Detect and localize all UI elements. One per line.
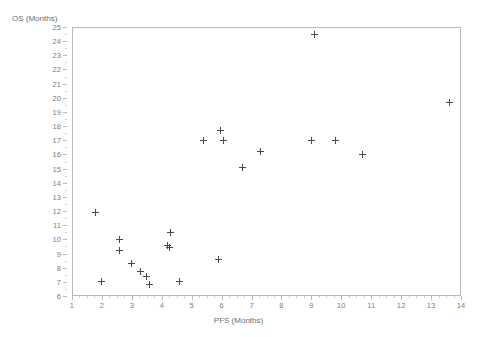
- data-point: [308, 137, 315, 144]
- x-minor-tick: [454, 296, 455, 298]
- data-point: [220, 137, 227, 144]
- x-minor-tick: [237, 296, 238, 298]
- x-minor-tick: [124, 296, 125, 298]
- x-tick-mark: [252, 296, 253, 300]
- x-minor-tick: [267, 296, 268, 298]
- x-minor-tick: [289, 296, 290, 298]
- x-minor-tick: [334, 296, 335, 298]
- data-point: [116, 247, 123, 254]
- x-minor-tick: [184, 296, 185, 298]
- data-point: [167, 229, 174, 236]
- x-minor-tick: [139, 296, 140, 298]
- x-tick-mark: [311, 296, 312, 300]
- data-point: [332, 137, 339, 144]
- data-point: [359, 151, 366, 158]
- x-tick-label: 9: [309, 301, 313, 310]
- x-minor-tick: [117, 296, 118, 298]
- x-minor-tick: [356, 296, 357, 298]
- x-tick-label: 12: [397, 301, 406, 310]
- x-minor-tick: [394, 296, 395, 298]
- x-minor-tick: [296, 296, 297, 298]
- x-tick-label: 11: [367, 301, 375, 310]
- data-point: [98, 278, 105, 285]
- data-point: [217, 127, 224, 134]
- scatter-plot-figure: OS (Months) 6789101112131415161718192021…: [0, 0, 477, 337]
- x-minor-tick: [229, 296, 230, 298]
- x-tick-mark: [431, 296, 432, 300]
- x-tick-mark: [281, 296, 282, 300]
- data-point: [92, 209, 99, 216]
- x-tick-label: 13: [427, 301, 436, 310]
- x-minor-tick: [349, 296, 350, 298]
- x-minor-tick: [304, 296, 305, 298]
- x-minor-tick: [409, 296, 410, 298]
- x-tick-label: 14: [457, 301, 466, 310]
- data-point: [176, 278, 183, 285]
- x-minor-tick: [446, 296, 447, 298]
- x-tick-label: 8: [279, 301, 283, 310]
- x-minor-tick: [207, 296, 208, 298]
- x-tick-label: 4: [160, 301, 164, 310]
- x-minor-tick: [416, 296, 417, 298]
- data-point: [146, 281, 153, 288]
- data-point: [239, 164, 246, 171]
- data-point: [166, 244, 173, 251]
- x-minor-tick: [439, 296, 440, 298]
- plot-data-area: [72, 27, 461, 296]
- x-minor-tick: [147, 296, 148, 298]
- x-minor-tick: [259, 296, 260, 298]
- x-tick-mark: [162, 296, 163, 300]
- x-minor-tick: [199, 296, 200, 298]
- x-tick-mark: [461, 296, 462, 300]
- x-axis-title: PFS (Months): [0, 316, 477, 325]
- x-minor-tick: [379, 296, 380, 298]
- x-minor-tick: [319, 296, 320, 298]
- x-tick-label: 1: [70, 301, 74, 310]
- data-point: [116, 236, 123, 243]
- x-tick-mark: [371, 296, 372, 300]
- x-minor-tick: [244, 296, 245, 298]
- x-minor-tick: [274, 296, 275, 298]
- x-minor-tick: [79, 296, 80, 298]
- x-tick-mark: [102, 296, 103, 300]
- x-minor-tick: [386, 296, 387, 298]
- x-minor-tick: [424, 296, 425, 298]
- x-minor-tick: [154, 296, 155, 298]
- x-minor-tick: [326, 296, 327, 298]
- data-point: [257, 148, 264, 155]
- x-minor-tick: [364, 296, 365, 298]
- x-tick-label: 2: [100, 301, 104, 310]
- data-point: [128, 260, 135, 267]
- x-tick-label: 10: [337, 301, 346, 310]
- x-tick-mark: [72, 296, 73, 300]
- x-tick-label: 6: [219, 301, 223, 310]
- x-tick-label: 3: [130, 301, 134, 310]
- data-point: [446, 99, 453, 106]
- data-point: [215, 256, 222, 263]
- x-tick-mark: [341, 296, 342, 300]
- x-minor-tick: [94, 296, 95, 298]
- data-point: [311, 31, 318, 38]
- x-minor-tick: [87, 296, 88, 298]
- data-point: [143, 273, 150, 280]
- x-tick-mark: [401, 296, 402, 300]
- x-tick-label: 7: [249, 301, 253, 310]
- x-minor-tick: [214, 296, 215, 298]
- data-point: [200, 137, 207, 144]
- x-tick-mark: [222, 296, 223, 300]
- x-tick-mark: [192, 296, 193, 300]
- x-minor-tick: [109, 296, 110, 298]
- x-minor-tick: [169, 296, 170, 298]
- x-tick-label: 5: [190, 301, 194, 310]
- x-minor-tick: [177, 296, 178, 298]
- x-tick-mark: [132, 296, 133, 300]
